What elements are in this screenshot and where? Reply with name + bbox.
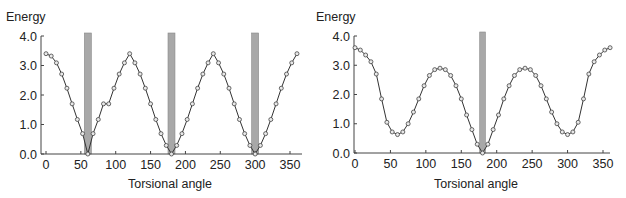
data-point (279, 86, 283, 90)
data-point (358, 48, 362, 52)
data-point (603, 48, 607, 52)
data-point (190, 102, 194, 106)
data-point (65, 86, 69, 90)
data-point (149, 102, 153, 106)
data-point (496, 113, 500, 117)
data-point (159, 132, 163, 136)
x-tick-label: 100 (105, 158, 126, 172)
data-point (353, 46, 357, 50)
data-point (164, 143, 168, 147)
data-point (264, 132, 268, 136)
data-point (133, 61, 137, 65)
data-point (528, 68, 532, 72)
data-point (422, 84, 426, 88)
data-point (96, 117, 100, 121)
x-tick-label: 200 (486, 157, 507, 171)
data-point (185, 117, 189, 121)
data-point (369, 60, 373, 64)
data-point (433, 68, 437, 72)
data-point (465, 113, 469, 117)
x-tick-label: 250 (522, 157, 543, 171)
data-point (486, 142, 490, 146)
data-point (222, 72, 226, 76)
data-point (608, 46, 612, 50)
data-point (454, 84, 458, 88)
data-point (417, 97, 421, 101)
data-point (285, 72, 289, 76)
data-point (550, 110, 554, 114)
data-point (427, 73, 431, 77)
y-tick-label: 3.0 (20, 59, 37, 73)
y-tick-label: 2.0 (333, 88, 350, 102)
y-tick-label: 0.0 (20, 148, 37, 162)
data-point (459, 97, 463, 101)
data-point (258, 143, 262, 147)
data-point (206, 61, 210, 65)
data-point (117, 72, 121, 76)
data-point (374, 72, 378, 76)
y-tick-label: 1.0 (333, 117, 350, 131)
data-point (274, 102, 278, 106)
data-point (122, 61, 126, 65)
data-point (571, 130, 575, 134)
data-point (597, 53, 601, 57)
data-point (385, 120, 389, 124)
y-tick-label: 0.0 (333, 147, 350, 161)
y-tick-label: 3.0 (333, 59, 350, 73)
data-point (401, 130, 405, 134)
data-point (523, 66, 527, 70)
y-tick-label: 4.0 (20, 30, 37, 44)
data-point (406, 122, 410, 126)
data-point (411, 110, 415, 114)
data-point (217, 61, 221, 65)
chart-right: 0.01.02.03.04.0050100150200250300350Ener… (316, 10, 613, 191)
data-point (295, 52, 299, 56)
highlight-band (168, 33, 175, 154)
data-point (582, 97, 586, 101)
data-point (502, 97, 506, 101)
y-tick-label: 2.0 (20, 89, 37, 103)
data-point (491, 128, 495, 132)
data-point (380, 97, 384, 101)
data-point (576, 120, 580, 124)
x-tick-label: 50 (383, 157, 397, 171)
data-point (544, 97, 548, 101)
x-tick-label: 0 (43, 158, 50, 172)
data-point (269, 117, 273, 121)
data-point (396, 133, 400, 137)
data-point (443, 68, 447, 72)
highlight-band (252, 33, 259, 154)
data-point (180, 132, 184, 136)
x-tick-label: 350 (280, 158, 301, 172)
x-tick-label: 150 (140, 158, 161, 172)
data-point (438, 66, 442, 70)
data-point (102, 102, 106, 106)
data-point (253, 152, 257, 156)
data-point (91, 132, 95, 136)
data-point (566, 133, 570, 137)
data-point (70, 102, 74, 106)
data-point (54, 61, 58, 65)
x-tick-label: 150 (451, 157, 472, 171)
data-point (507, 84, 511, 88)
chart-left: 0.01.02.03.04.0050100150200250300350Ener… (6, 10, 302, 191)
x-tick-label: 350 (593, 157, 614, 171)
data-point (237, 117, 241, 121)
data-point (560, 130, 564, 134)
data-point (49, 54, 53, 58)
data-point (449, 73, 453, 77)
x-axis-title: Torsional angle (434, 177, 518, 191)
x-tick-label: 300 (245, 158, 266, 172)
x-tick-label: 200 (175, 158, 196, 172)
highlight-band (480, 32, 486, 153)
data-point (390, 130, 394, 134)
y-tick-label: 1.0 (20, 118, 37, 132)
x-tick-label: 0 (352, 157, 359, 171)
data-point (539, 84, 543, 88)
data-point (138, 72, 142, 76)
data-point (107, 102, 111, 106)
data-point (470, 128, 474, 132)
data-point (555, 122, 559, 126)
x-tick-label: 50 (74, 158, 88, 172)
data-point (112, 86, 116, 90)
